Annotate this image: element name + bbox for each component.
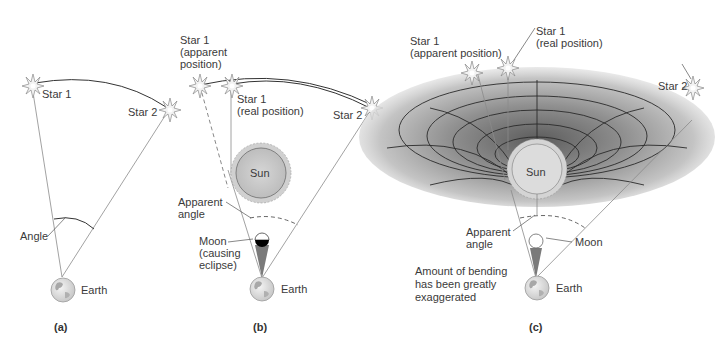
label-moon-3: eclipse) [199,259,237,271]
star1-icon [22,74,44,98]
label-star1-real-1: Star 1 [237,93,266,105]
label-earth: Earth [556,282,582,294]
label-star2: Star 2 [128,106,157,118]
label-sun: Sun [250,167,270,179]
earth-icon [525,276,549,300]
label-note-1: Amount of bending [415,265,507,277]
earth-icon [250,277,274,301]
label-star1-real-2: (real position) [237,105,304,117]
label-note-3: exaggerated [415,291,476,303]
gravitational-lensing-diagram: Star 1 Star 2 Angle Earth (a) Sun Star 1… [0,0,723,346]
dashed-ray-apparent [200,86,228,188]
star2-leader [682,64,691,79]
label-star2: Star 2 [333,109,362,121]
moon-leader [546,238,572,242]
label-star1-apparent-1: Star 1 [410,35,439,47]
label-earth: Earth [281,283,307,295]
label-star1-real-1: Star 1 [536,25,565,37]
star1-apparent-icon [189,74,211,98]
label-moon-1: Moon [199,235,227,247]
caption-c: (c) [529,321,543,333]
moon-icon [255,233,269,240]
label-apparent-angle-2: angle [178,208,205,220]
label-star2: Star 2 [658,80,687,92]
ray-star2 [62,108,170,277]
moon-leader [228,239,253,242]
panel-a: Star 1 Star 2 Angle Earth (a) [20,74,181,333]
apparent-angle-arc [250,217,298,225]
label-moon: Moon [575,236,603,248]
label-star1-apparent-2: (apparent [180,46,227,58]
panel-b: Sun Star 1 (apparent position) Star 1 (r… [178,34,383,333]
label-star1: Star 1 [42,88,71,100]
label-note-2: has been greatly [415,278,497,290]
label-angle: Angle [20,230,48,242]
label-star1-real-2: (real position) [536,37,603,49]
earth-icon [51,278,75,302]
label-sun: Sun [526,166,546,178]
label-apparent-angle-2: angle [466,238,493,250]
label-star1-apparent-1: Star 1 [180,34,209,46]
label-star1-apparent-3: position) [180,58,222,70]
panel-c: Sun Star 1 (apparent position) Star 1 (r… [359,25,715,333]
label-apparent-angle-1: Apparent [178,196,223,208]
caption-b: (b) [253,321,267,333]
ray-star1 [32,86,62,277]
label-apparent-angle-1: Apparent [466,226,511,238]
label-moon-2: (causing [199,247,241,259]
sun: Sun [507,139,567,199]
star2-icon [159,98,181,122]
caption-a: (a) [54,321,68,333]
sun: Sun [231,143,291,203]
apparent-angle-arc [520,216,585,228]
moon-icon [529,234,543,248]
angle-leader [48,217,66,236]
label-star1-apparent-2: (apparent position) [410,47,502,59]
label-earth: Earth [81,284,107,296]
